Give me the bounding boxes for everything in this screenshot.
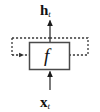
cell-box bbox=[30, 43, 70, 70]
input-subscript: t bbox=[48, 101, 51, 111]
output-label: ht bbox=[40, 2, 51, 19]
recurrent-cell-diagram: ht xt f bbox=[0, 0, 100, 112]
input-symbol: x bbox=[40, 94, 48, 110]
function-label: f bbox=[44, 46, 49, 65]
input-label: xt bbox=[40, 94, 50, 111]
output-subscript: t bbox=[48, 9, 51, 19]
